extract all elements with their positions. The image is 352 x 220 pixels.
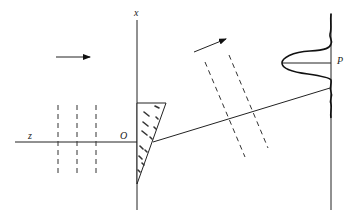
x-axis-label: x <box>133 7 139 18</box>
deflected-ray <box>153 88 330 142</box>
deflected-wavefronts <box>205 55 268 157</box>
point-p-label: P <box>336 55 343 66</box>
incident-wavefronts <box>58 105 96 176</box>
deflected-wavefront <box>229 55 268 148</box>
z-axis-label: z <box>27 130 32 141</box>
origin-label: O <box>120 130 127 141</box>
prism-outline <box>137 103 166 184</box>
deflected-wavefront <box>205 62 245 157</box>
wedge-prism <box>137 103 166 184</box>
deflected-direction-arrow <box>194 39 226 52</box>
diagram-canvas: x z O <box>0 0 352 220</box>
intensity-pattern-curve <box>282 14 332 118</box>
